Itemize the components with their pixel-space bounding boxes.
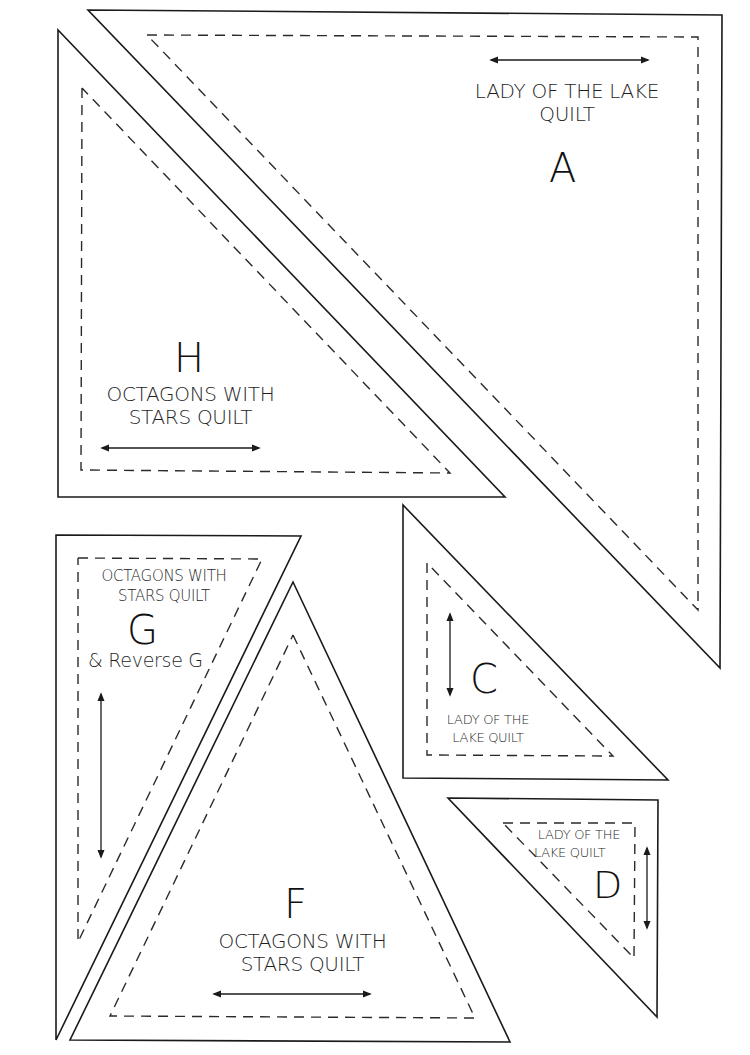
piece-d-letter: D [593, 866, 622, 904]
piece-h-letter: H [174, 338, 204, 378]
piece-d-quilt-name: LADY OF THE LAKE QUILT [528, 826, 630, 861]
piece-a-letter: A [549, 148, 576, 188]
piece-h-quilt-line2: STARS QUILT [88, 406, 293, 429]
piece-f-quilt-line2: STARS QUILT [200, 953, 405, 976]
piece-f-letter: F [284, 884, 307, 924]
template-drawing [0, 0, 750, 1055]
piece-c-quilt-line2: LAKE QUILT [436, 729, 540, 747]
piece-f-quilt-name: OCTAGONS WITH STARS QUILT [200, 930, 405, 976]
piece-f-quilt-line1: OCTAGONS WITH [200, 930, 405, 953]
piece-d-quilt-line2: LAKE QUILT [528, 844, 630, 862]
piece-c-quilt-line1: LADY OF THE [436, 711, 540, 729]
piece-g-letter: G [127, 610, 158, 650]
piece-g-quilt-line2: STARS QUILT [86, 587, 242, 607]
piece-d-quilt-line1: LADY OF THE [528, 826, 630, 844]
piece-g-reverse-note: & Reverse G [88, 650, 203, 672]
piece-a-quilt-line2: QUILT [458, 103, 676, 126]
piece-g-quilt-name: OCTAGONS WITH STARS QUILT [86, 567, 242, 606]
piece-a-quilt-name: LADY OF THE LAKE QUILT [458, 80, 676, 126]
piece-c-letter: C [470, 659, 498, 699]
piece-g-quilt-line1: OCTAGONS WITH [86, 567, 242, 587]
piece-a-quilt-line1: LADY OF THE LAKE [458, 80, 676, 103]
piece-h-quilt-line1: OCTAGONS WITH [88, 383, 293, 406]
piece-c-quilt-name: LADY OF THE LAKE QUILT [436, 711, 540, 747]
piece-h-quilt-name: OCTAGONS WITH STARS QUILT [88, 383, 293, 429]
